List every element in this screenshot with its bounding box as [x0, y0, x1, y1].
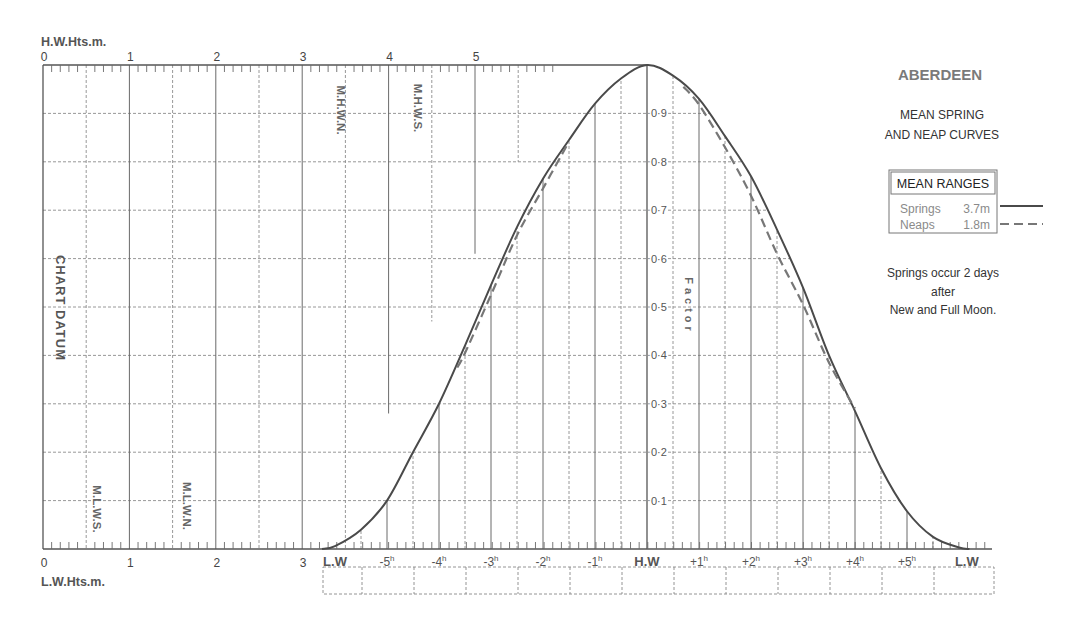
legend: MEAN RANGES Springs 3.7m Neaps 1.8m [889, 170, 1043, 233]
time-tick-label: L.W [323, 554, 348, 569]
bottom-tick-label: 3 [300, 556, 307, 570]
time-tick-unit: h [494, 554, 498, 563]
legend-springs-name: Springs [900, 202, 941, 216]
grid [43, 65, 933, 549]
bottom-tick-label: 0 [41, 556, 48, 570]
factor-tick-label: 0·3 [651, 398, 667, 410]
legend-neaps-value: 1.8m [963, 218, 990, 232]
legend-title: MEAN RANGES [897, 177, 989, 191]
tidal-curve-chart: 01234501230·10·20·30·40·50·60·70·80·9L.W… [0, 0, 1086, 628]
mlwn-label: M.L.W.N. [181, 482, 193, 530]
factor-tick-label: 0·6 [651, 253, 667, 265]
time-tick-unit: h [598, 554, 602, 563]
time-tick-unit: h [756, 554, 760, 563]
time-tick-unit: h [808, 554, 812, 563]
time-tick-value: L.W [955, 554, 980, 569]
time-tick-value: -4 [431, 555, 442, 569]
top-tick-label: 5 [473, 50, 480, 64]
note-line-3: New and Full Moon. [890, 303, 997, 317]
time-tick-unit: h [546, 554, 550, 563]
chart-subtitle-line-2: AND NEAP CURVES [885, 128, 999, 142]
time-tick-value: H.W [634, 554, 660, 569]
time-tick-value: -3 [483, 555, 494, 569]
chart-subtitle-line-1: MEAN SPRING [900, 108, 984, 122]
time-tick-value: +2 [742, 555, 756, 569]
chart-datum-label: CHART DATUM [53, 255, 68, 361]
time-tick-value: +5 [898, 555, 912, 569]
time-tick-unit: h [912, 554, 916, 563]
top-axis-title: H.W.Hts.m. [41, 35, 106, 49]
note-line-2: after [931, 285, 955, 299]
top-tick-label: 2 [213, 50, 220, 64]
factor-tick-label: 0·2 [651, 446, 667, 458]
neaps-curve-segment [683, 87, 855, 409]
time-tick-unit: h [860, 554, 864, 563]
mlws-label: M.L.W.S. [91, 485, 103, 532]
time-tick-label: L.W [955, 554, 980, 569]
time-tick-label: +2h [742, 554, 760, 569]
factor-tick-label: 0·8 [651, 156, 667, 168]
note-line-1: Springs occur 2 days [887, 266, 999, 280]
time-tick-value: -2 [535, 555, 546, 569]
time-tick-label: -5h [379, 554, 394, 569]
bottom-tick-label: 1 [127, 556, 134, 570]
chart-title: ABERDEEN [898, 66, 982, 83]
time-tick-label: H.W [634, 554, 660, 569]
factor-tick-label: 0·5 [651, 301, 667, 313]
factor-tick-label: 0·9 [651, 107, 667, 119]
factor-tick-label: 0·7 [651, 204, 667, 216]
bottom-axis-title: L.W.Hts.m. [41, 575, 105, 589]
top-tick-label: 3 [300, 50, 307, 64]
time-tick-label: +4h [846, 554, 864, 569]
time-tick-value: +3 [794, 555, 808, 569]
time-tick-value: L.W [323, 554, 348, 569]
factor-axis-label: Factor [683, 277, 695, 335]
time-tick-unit: h [390, 554, 394, 563]
time-entry-row [323, 567, 994, 594]
time-tick-value: -5 [379, 555, 390, 569]
top-tick-label: 0 [41, 50, 48, 64]
neaps-curve-segment [457, 146, 566, 367]
top-tick-label: 1 [127, 50, 134, 64]
factor-tick-label: 0·4 [651, 349, 667, 361]
factor-tick-label: 0·1 [651, 495, 667, 507]
legend-neaps-name: Neaps [900, 218, 935, 232]
mhwn-label: M.H.W.N. [335, 85, 347, 134]
time-tick-label: -3h [483, 554, 498, 569]
time-tick-value: -1 [587, 555, 598, 569]
bottom-tick-label: 2 [213, 556, 220, 570]
time-tick-value: +1 [690, 555, 704, 569]
time-tick-unit: h [704, 554, 708, 563]
legend-springs-value: 3.7m [963, 202, 990, 216]
top-tick-label: 4 [386, 50, 393, 64]
time-tick-unit: h [442, 554, 446, 563]
mhws-label: M.H.W.S. [412, 84, 424, 133]
time-tick-value: +4 [846, 555, 860, 569]
